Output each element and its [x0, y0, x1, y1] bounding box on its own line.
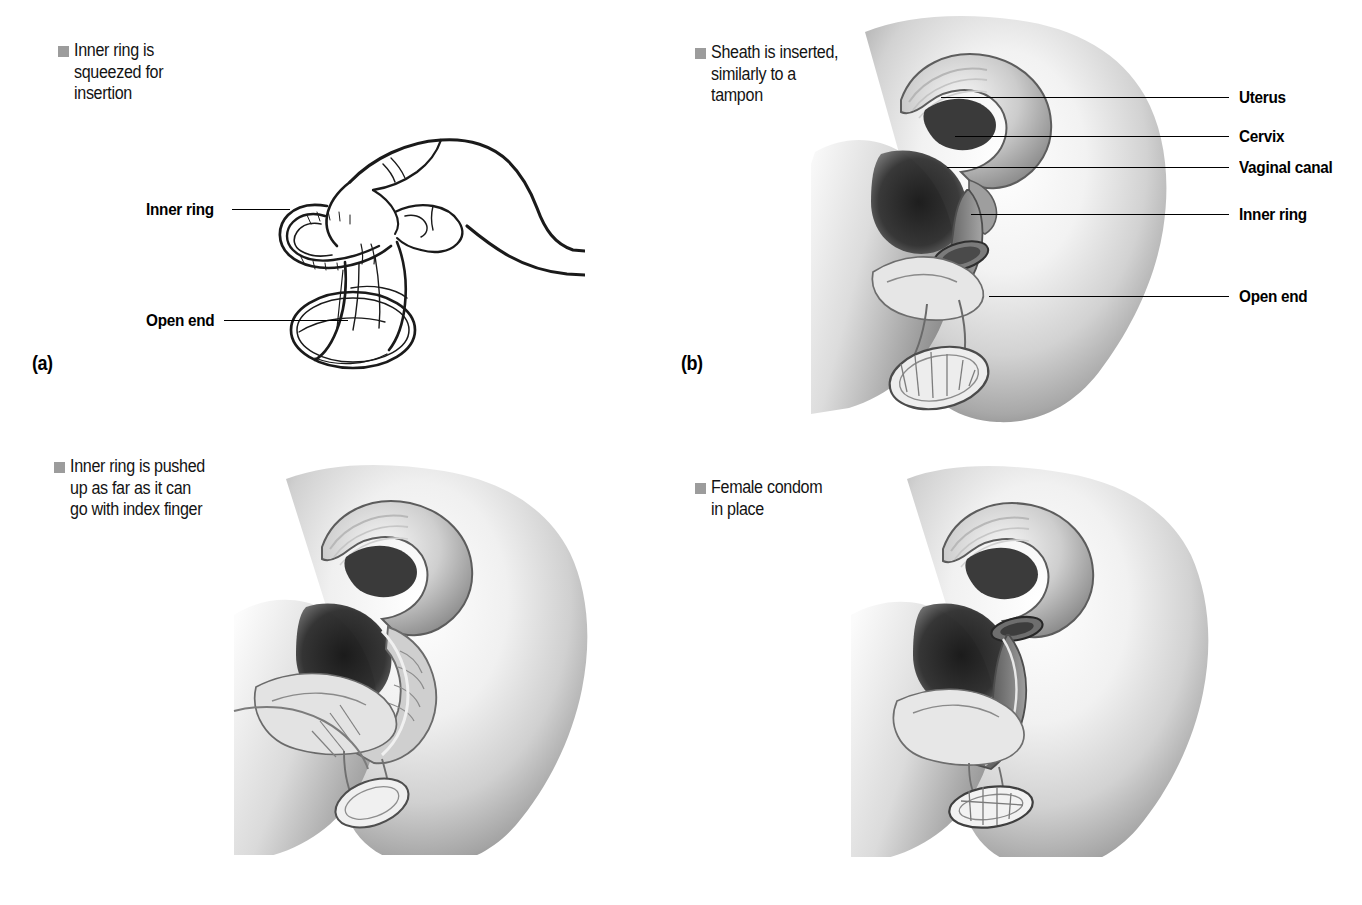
panel-c-caption-text: Inner ring is pushed up as far as it can…	[70, 456, 205, 521]
bullet-square-icon	[58, 46, 69, 57]
bullet-square-icon	[695, 483, 706, 494]
panel-d-illustration	[851, 457, 1251, 857]
panel-a-label-open-end: Open end	[146, 311, 214, 331]
panel-b-leader-open-end	[989, 296, 1229, 297]
panel-d-caption: Female condom in place	[695, 477, 870, 520]
panel-b-label-open-end: Open end	[1239, 287, 1307, 307]
panel-a-leader-inner-ring	[232, 209, 290, 210]
figure-root: Inner ring is squeezed for insertion	[0, 0, 1362, 905]
bullet-square-icon	[54, 462, 65, 473]
panel-b-leader-uterus	[941, 97, 1229, 98]
panel-b-leader-inner-ring	[971, 214, 1229, 215]
panel-b-label-uterus: Uterus	[1239, 88, 1286, 108]
bullet-square-icon	[695, 48, 706, 59]
panel-a: Inner ring is squeezed for insertion	[0, 0, 681, 437]
panel-b-label-inner-ring: Inner ring	[1239, 205, 1307, 225]
panel-c: Inner ring is pushed up as far as it can…	[0, 437, 681, 874]
panel-a-caption-text: Inner ring is squeezed for insertion	[74, 40, 163, 105]
panel-b-label-cervix: Cervix	[1239, 127, 1284, 147]
panel-a-label-inner-ring: Inner ring	[146, 200, 214, 220]
panel-a-illustration	[255, 120, 585, 370]
panel-d-caption-text: Female condom in place	[711, 477, 822, 520]
panel-letter-b: (b)	[681, 352, 703, 375]
panel-b-label-vaginal-canal: Vaginal canal	[1239, 158, 1332, 178]
panel-c-illustration	[232, 455, 632, 855]
panel-b-leader-cervix	[955, 136, 1229, 137]
panel-b: Sheath is inserted, similarly to a tampo…	[681, 0, 1362, 437]
panel-d: Female condom in place	[681, 437, 1362, 874]
panel-a-caption: Inner ring is squeezed for insertion	[58, 40, 238, 105]
panel-letter-a: (a)	[32, 352, 53, 375]
panel-a-leader-open-end	[224, 320, 348, 321]
panel-b-leader-vaginal-canal	[947, 167, 1229, 168]
